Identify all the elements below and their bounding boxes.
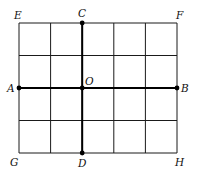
point-a-dot — [17, 86, 22, 91]
point-c-dot — [80, 21, 85, 26]
point-label-b: B — [180, 82, 189, 94]
point-label-g: G — [10, 156, 18, 168]
point-label-o: O — [85, 75, 94, 87]
point-label-a: A — [6, 82, 15, 94]
bold-segments — [19, 23, 177, 153]
point-label-e: E — [13, 9, 22, 21]
grid-diagram: ABCDOEFGH — [0, 0, 198, 180]
grid-figure-canvas: ABCDOEFGH — [0, 0, 198, 180]
point-d-dot — [80, 151, 85, 156]
point-o-dot — [80, 86, 85, 91]
point-label-h: H — [174, 156, 185, 168]
point-label-d: D — [77, 157, 87, 169]
point-label-c: C — [78, 7, 86, 19]
point-b-dot — [175, 86, 180, 91]
point-label-f: F — [175, 9, 184, 21]
